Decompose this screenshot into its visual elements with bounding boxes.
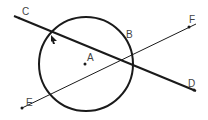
point-C (18, 17, 20, 19)
point-F (188, 26, 191, 29)
point-E (21, 107, 24, 110)
geometry-diagram: C A B F D E (0, 0, 208, 120)
label-F: F (189, 14, 195, 25)
label-D: D (188, 78, 195, 89)
diagram-canvas: C A B F D E (0, 0, 208, 120)
label-B: B (126, 29, 133, 40)
label-C: C (22, 6, 29, 17)
label-E: E (26, 97, 33, 108)
label-A: A (87, 52, 94, 63)
cursor-arrow-icon (51, 35, 57, 44)
